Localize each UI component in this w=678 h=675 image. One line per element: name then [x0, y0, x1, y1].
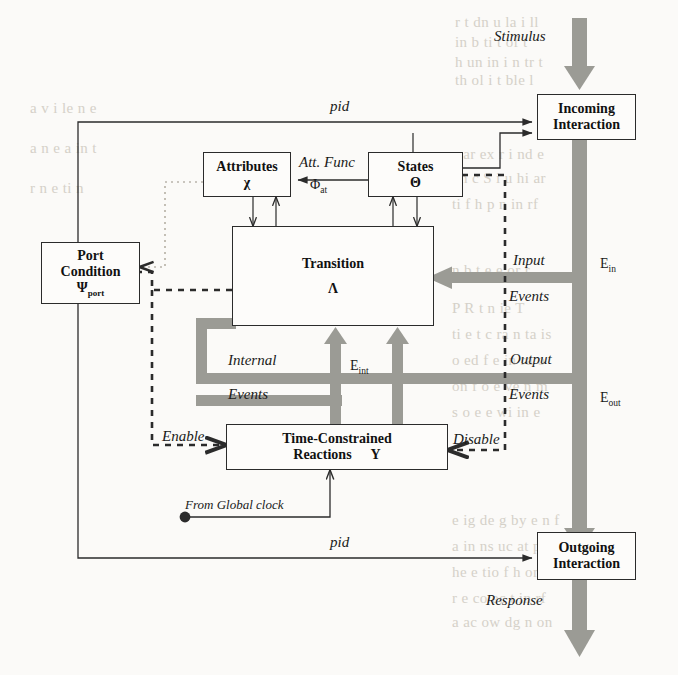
e-in-subscript: in — [609, 264, 616, 274]
label-att-func: Att. Func — [299, 154, 355, 171]
label-response: Response — [486, 592, 543, 609]
box-transition-label: Transition — [302, 256, 364, 272]
diagram-canvas: r t dn u la i llin b ti t of th un in i … — [0, 0, 678, 675]
transition-to-port-condition-dashed — [140, 272, 232, 290]
box-outgoing-interaction-line2: Interaction — [553, 556, 620, 572]
box-port-condition-line1: Port — [77, 248, 103, 264]
label-disable: Disable — [453, 431, 500, 448]
box-states-symbol: Θ — [410, 175, 421, 191]
box-incoming-interaction-line1: Incoming — [558, 101, 615, 117]
box-attributes-symbol: χ — [244, 175, 250, 191]
input-events-ribbon — [427, 267, 580, 290]
box-outgoing-interaction-line1: Outgoing — [558, 540, 614, 556]
box-transition[interactable]: Transition Λ — [232, 226, 434, 326]
e-out-glyph: E — [600, 390, 609, 405]
states-to-incoming-wire — [462, 133, 532, 168]
box-port-condition-line2: Condition — [61, 264, 121, 280]
label-input-events: Events — [509, 288, 549, 305]
e-in-glyph: E — [600, 256, 609, 271]
box-reactions-line1: Time-Constrained — [282, 431, 391, 447]
label-e-in: Ein — [600, 256, 616, 274]
box-incoming-interaction-line2: Interaction — [553, 117, 620, 133]
label-internal: Internal — [228, 352, 276, 369]
psi-subscript: port — [88, 288, 105, 298]
box-reactions-symbol: Y — [371, 447, 381, 463]
box-reactions-line2: Reactions — [293, 447, 351, 463]
box-transition-symbol: Λ — [328, 281, 338, 297]
label-pid-top: pid — [330, 98, 349, 115]
disable-dashed-wire — [448, 175, 505, 450]
box-states-label: States — [398, 159, 434, 175]
enable-dashed-wire — [152, 290, 226, 445]
label-from-global-clock: From Global clock — [185, 497, 283, 513]
box-attributes[interactable]: Attributes χ — [203, 152, 291, 197]
attributes-to-port-condition-dotted — [140, 182, 203, 267]
label-e-int: Eint — [350, 358, 369, 376]
box-incoming-interaction[interactable]: Incoming Interaction — [537, 94, 636, 140]
label-pid-bottom: pid — [330, 534, 349, 551]
box-reactions-line2-row: Reactions Y — [293, 447, 380, 463]
psi-glyph: Ψ — [77, 280, 88, 295]
global-clock-terminal-dot — [180, 512, 191, 523]
e-int-glyph: E — [350, 358, 359, 373]
e-int-subscript: int — [359, 366, 369, 376]
e-out-subscript: out — [609, 398, 621, 408]
label-input: Input — [513, 252, 545, 269]
phi-subscript: at — [320, 185, 327, 195]
label-enable: Enable — [162, 428, 205, 445]
label-att-func-symbol: Φat — [310, 177, 327, 195]
box-states[interactable]: States Θ — [368, 152, 463, 197]
label-output-events: Events — [509, 386, 549, 403]
label-output: Output — [510, 351, 552, 368]
box-time-constrained-reactions[interactable]: Time-Constrained Reactions Y — [226, 424, 448, 470]
box-attributes-label: Attributes — [216, 159, 277, 175]
box-outgoing-interaction[interactable]: Outgoing Interaction — [537, 532, 636, 580]
label-internal-events: Events — [228, 386, 268, 403]
reactions-left-riser — [330, 406, 341, 424]
main-vertical-ribbon — [564, 140, 595, 551]
label-stimulus: Stimulus — [494, 28, 546, 45]
box-port-condition[interactable]: Port Condition Ψport — [41, 242, 140, 304]
label-e-out: Eout — [600, 390, 621, 408]
phi-glyph: Φ — [310, 177, 320, 192]
box-port-condition-symbol: Ψport — [77, 280, 104, 298]
response-ribbon-arrow — [564, 580, 595, 657]
stimulus-ribbon-arrow — [564, 18, 595, 90]
